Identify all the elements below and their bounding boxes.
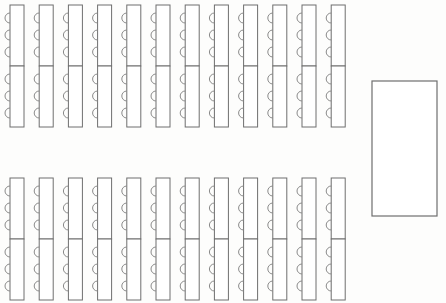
table-top[interactable] <box>39 66 53 127</box>
table-top[interactable] <box>156 66 170 127</box>
banquet-table[interactable] <box>34 178 53 239</box>
table-column[interactable] <box>151 178 170 300</box>
chair-icon[interactable] <box>209 281 214 291</box>
table-top[interactable] <box>10 239 24 300</box>
table-top[interactable] <box>302 5 316 66</box>
chair-icon[interactable] <box>180 203 185 213</box>
chair-icon[interactable] <box>5 220 10 230</box>
chair-icon[interactable] <box>297 186 302 196</box>
table-column[interactable] <box>326 5 345 127</box>
chair-icon[interactable] <box>93 203 98 213</box>
banquet-table[interactable] <box>151 66 170 127</box>
table-top[interactable] <box>331 239 345 300</box>
chair-icon[interactable] <box>34 47 39 57</box>
chair-icon[interactable] <box>326 13 331 23</box>
table-top[interactable] <box>98 66 112 127</box>
banquet-table[interactable] <box>5 66 24 127</box>
chair-icon[interactable] <box>122 91 127 101</box>
banquet-table[interactable] <box>122 5 141 66</box>
table-top[interactable] <box>39 178 53 239</box>
banquet-table[interactable] <box>180 66 199 127</box>
chair-icon[interactable] <box>209 108 214 118</box>
chair-icon[interactable] <box>151 220 156 230</box>
banquet-table[interactable] <box>209 66 228 127</box>
chair-icon[interactable] <box>93 247 98 257</box>
banquet-table[interactable] <box>268 239 287 300</box>
chair-icon[interactable] <box>326 91 331 101</box>
chair-icon[interactable] <box>34 91 39 101</box>
chair-icon[interactable] <box>268 13 273 23</box>
table-top[interactable] <box>214 239 228 300</box>
chair-icon[interactable] <box>209 220 214 230</box>
chair-icon[interactable] <box>268 203 273 213</box>
chair-icon[interactable] <box>34 30 39 40</box>
table-column[interactable] <box>326 178 345 300</box>
banquet-table[interactable] <box>326 5 345 66</box>
chair-icon[interactable] <box>63 264 68 274</box>
banquet-table[interactable] <box>63 66 82 127</box>
chair-icon[interactable] <box>326 108 331 118</box>
table-top[interactable] <box>10 178 24 239</box>
table-top[interactable] <box>214 178 228 239</box>
chair-icon[interactable] <box>63 74 68 84</box>
chair-icon[interactable] <box>151 47 156 57</box>
chair-icon[interactable] <box>34 108 39 118</box>
table-top[interactable] <box>127 239 141 300</box>
banquet-table[interactable] <box>297 5 316 66</box>
chair-icon[interactable] <box>122 264 127 274</box>
chair-icon[interactable] <box>268 186 273 196</box>
chair-icon[interactable] <box>34 220 39 230</box>
chair-icon[interactable] <box>297 13 302 23</box>
banquet-table[interactable] <box>5 239 24 300</box>
table-top[interactable] <box>273 5 287 66</box>
banquet-table[interactable] <box>63 239 82 300</box>
chair-icon[interactable] <box>93 186 98 196</box>
chair-icon[interactable] <box>268 91 273 101</box>
chair-icon[interactable] <box>239 186 244 196</box>
banquet-table[interactable] <box>93 239 112 300</box>
table-column[interactable] <box>63 5 82 127</box>
table-top[interactable] <box>68 239 82 300</box>
chair-icon[interactable] <box>239 203 244 213</box>
table-top[interactable] <box>98 5 112 66</box>
chair-icon[interactable] <box>122 30 127 40</box>
chair-icon[interactable] <box>5 74 10 84</box>
table-column[interactable] <box>93 5 112 127</box>
table-column[interactable] <box>122 5 141 127</box>
chair-icon[interactable] <box>180 186 185 196</box>
chair-icon[interactable] <box>268 108 273 118</box>
table-column[interactable] <box>180 178 199 300</box>
chair-icon[interactable] <box>297 47 302 57</box>
chair-icon[interactable] <box>268 47 273 57</box>
chair-icon[interactable] <box>151 203 156 213</box>
table-column[interactable] <box>34 178 53 300</box>
chair-icon[interactable] <box>63 47 68 57</box>
chair-icon[interactable] <box>151 108 156 118</box>
table-top[interactable] <box>39 5 53 66</box>
banquet-table[interactable] <box>93 5 112 66</box>
table-top[interactable] <box>156 239 170 300</box>
chair-icon[interactable] <box>268 264 273 274</box>
chair-icon[interactable] <box>93 281 98 291</box>
chair-icon[interactable] <box>326 186 331 196</box>
chair-icon[interactable] <box>93 91 98 101</box>
banquet-table[interactable] <box>239 66 258 127</box>
chair-icon[interactable] <box>297 74 302 84</box>
table-top[interactable] <box>10 5 24 66</box>
chair-icon[interactable] <box>326 264 331 274</box>
banquet-table[interactable] <box>122 66 141 127</box>
chair-icon[interactable] <box>63 186 68 196</box>
table-column[interactable] <box>180 5 199 127</box>
table-column[interactable] <box>239 5 258 127</box>
chair-icon[interactable] <box>180 47 185 57</box>
chair-icon[interactable] <box>297 203 302 213</box>
chair-icon[interactable] <box>122 203 127 213</box>
chair-icon[interactable] <box>239 264 244 274</box>
chair-icon[interactable] <box>5 47 10 57</box>
chair-icon[interactable] <box>326 74 331 84</box>
table-top[interactable] <box>244 66 258 127</box>
stage-rectangle[interactable] <box>372 81 437 216</box>
table-column[interactable] <box>93 178 112 300</box>
banquet-table[interactable] <box>93 66 112 127</box>
chair-icon[interactable] <box>209 30 214 40</box>
